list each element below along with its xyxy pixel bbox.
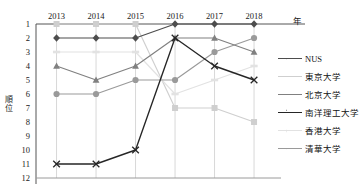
y-tick-8: 8: [14, 118, 30, 127]
legend-key-香港大学: [278, 124, 302, 138]
point-清華大学-2018: [251, 35, 257, 41]
y-tick-4: 4: [14, 62, 30, 71]
point-北京大学-2015: [132, 62, 139, 68]
point-東京大学-2016: [172, 105, 178, 111]
point-東京大学-2018: [251, 119, 257, 125]
point-香港大学-2013: [53, 51, 60, 54]
legend-key-南洋理工大学: [278, 106, 302, 120]
series-line-NUS: [57, 24, 255, 38]
x-tick-2016: 2016: [158, 12, 192, 21]
point-NUS-2013: [53, 34, 60, 42]
legend-label: 南洋理工大学: [302, 108, 359, 118]
x-tick-2013: 2013: [40, 12, 74, 21]
series-line-香港大学: [57, 52, 255, 94]
legend-item-香港大学[interactable]: 香港大学: [278, 122, 363, 140]
y-tick-9: 9: [14, 132, 30, 141]
legend-item-清華大学[interactable]: 清華大学: [278, 140, 363, 158]
point-NUS-2014: [93, 34, 100, 42]
point-NUS-2015: [132, 34, 139, 42]
chart-legend: NUS東京大学北京大学南洋理工大学香港大学清華大学: [278, 50, 363, 158]
x-tick-2015: 2015: [119, 12, 153, 21]
legend-marker-square-icon: [278, 70, 287, 79]
legend-item-北京大学[interactable]: 北京大学: [278, 86, 363, 104]
legend-item-東京大学[interactable]: 東京大学: [278, 68, 363, 86]
series-line-南洋理工大学: [57, 38, 255, 164]
point-東京大学-2013: [54, 21, 60, 27]
point-NUS-2017: [211, 20, 218, 28]
legend-marker-glyph: [286, 130, 287, 133]
series-香港大学: [53, 51, 258, 96]
legend-marker-circle-icon: [278, 142, 287, 151]
legend-item-南洋理工大学[interactable]: 南洋理工大学: [278, 104, 363, 122]
point-NUS-2018: [251, 20, 258, 28]
point-東京大学-2015: [133, 21, 139, 27]
y-tick-10: 10: [14, 146, 30, 155]
point-清華大学-2016: [172, 77, 178, 83]
y-tick-12: 12: [14, 174, 30, 183]
legend-marker-dash-icon: [278, 124, 287, 133]
x-tick-2014: 2014: [79, 12, 113, 21]
y-tick-3: 3: [14, 48, 30, 57]
point-香港大学-2015: [132, 51, 139, 54]
x-tick-2017: 2017: [198, 12, 232, 21]
y-tick-5: 5: [14, 76, 30, 85]
legend-marker-x-icon: [278, 106, 287, 115]
legend-label: 清華大学: [302, 144, 341, 154]
y-tick-11: 11: [14, 160, 30, 169]
x-tick-2018: 2018: [237, 12, 271, 21]
point-清華大学-2015: [132, 77, 138, 83]
y-tick-1: 1: [14, 20, 30, 29]
point-東京大学-2014: [93, 21, 99, 27]
rank-line-chart: 順位 年 123456789101112 2013201420152016201…: [0, 0, 363, 189]
y-tick-7: 7: [14, 104, 30, 113]
legend-label: 香港大学: [302, 126, 341, 136]
legend-item-NUS[interactable]: NUS: [278, 50, 363, 68]
legend-label: 東京大学: [302, 72, 341, 82]
y-tick-6: 6: [14, 90, 30, 99]
legend-marker-diamond-icon: [278, 52, 287, 61]
point-香港大学-2014: [92, 51, 99, 54]
point-清華大学-2014: [93, 91, 99, 97]
point-香港大学-2017: [211, 79, 218, 82]
legend-marker-triangle-icon: [278, 88, 287, 97]
point-北京大学-2013: [53, 62, 60, 68]
point-香港大学-2016: [171, 93, 178, 96]
point-清華大学-2013: [53, 91, 59, 97]
legend-key-清華大学: [278, 142, 302, 156]
y-tick-2: 2: [14, 34, 30, 43]
series-南洋理工大学: [53, 35, 257, 168]
legend-key-東京大学: [278, 70, 302, 84]
legend-key-北京大学: [278, 88, 302, 102]
legend-label: 北京大学: [302, 90, 341, 100]
point-香港大学-2018: [250, 65, 257, 68]
point-東京大学-2017: [212, 105, 218, 111]
legend-label: NUS: [302, 54, 322, 64]
legend-key-NUS: [278, 52, 302, 66]
point-NUS-2016: [172, 20, 179, 28]
point-清華大学-2017: [211, 49, 217, 55]
x-axis-title: 年: [293, 14, 302, 26]
